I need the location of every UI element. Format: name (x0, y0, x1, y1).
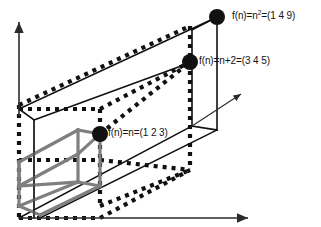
point-n[interactable] (92, 126, 108, 142)
dotted-box-edge-inner-diag (100, 62, 190, 134)
dotted-box-edge-bottom-rear (100, 170, 190, 206)
gray-box-edge-bottom-left (19, 206, 40, 215)
point-n-squared[interactable] (209, 9, 225, 25)
label-point-n: f(n)=n=(1 2 3) (108, 128, 168, 138)
inner-gray-box (19, 130, 100, 215)
vector-space-diagram (0, 0, 321, 227)
dotted-box-edge-top-front (100, 62, 190, 109)
data-points-group (92, 9, 225, 142)
point-n-plus-2[interactable] (182, 54, 198, 70)
outer-solid-box (19, 17, 217, 218)
dotted-box-edge-top-rear (19, 26, 190, 105)
label-point-n-squared: f(n)=n2=(1 4 9) (232, 11, 295, 21)
diagram-canvas: f(n)=n2=(1 4 9) f(n)=n+2=(3 4 5) f(n)=n=… (0, 0, 321, 227)
middle-dotted-box (19, 26, 190, 218)
label-point-n-plus-2: f(n)=n+2=(3 4 5) (199, 56, 270, 66)
outer-box-edge-right-bottom (192, 126, 217, 130)
